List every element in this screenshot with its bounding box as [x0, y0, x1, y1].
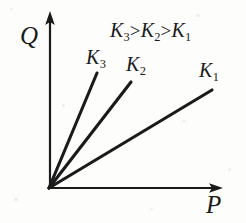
- ray-k3: [49, 73, 97, 188]
- inequality-annotation: K3>K2>K1: [110, 20, 191, 40]
- ray-label-k3: K3: [86, 47, 106, 67]
- inequality-term-k2: K2: [141, 19, 160, 41]
- ray-k1: [49, 90, 212, 188]
- ray-label-k1: K1: [199, 60, 219, 80]
- x-axis-label: P: [206, 192, 221, 217]
- ray-k2: [49, 82, 131, 188]
- ray-diagram-figure: Q P K3>K2>K1 K3 K2 K1: [0, 0, 246, 223]
- inequality-term-k1: K1: [171, 19, 190, 41]
- greater-than-operator: >: [129, 20, 140, 41]
- ray-label-k2: K2: [126, 54, 146, 74]
- greater-than-operator: >: [160, 20, 171, 41]
- inequality-term-k3: K3: [110, 19, 129, 41]
- y-axis-label: Q: [20, 23, 38, 48]
